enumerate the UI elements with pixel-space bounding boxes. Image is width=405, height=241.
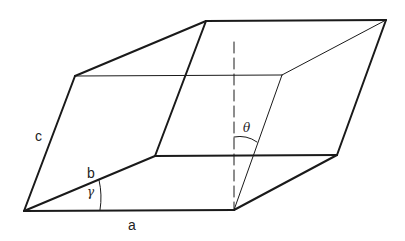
edge-top-front-thin	[75, 75, 282, 76]
edge-front-right-thin	[234, 75, 282, 210]
label-gamma: γ	[87, 186, 94, 198]
edge-back-left	[155, 21, 206, 156]
edge-a	[24, 210, 234, 211]
edge-top-back	[206, 20, 386, 21]
edge-back-right	[337, 20, 386, 155]
edge-top-left	[75, 21, 206, 76]
label-theta: θ	[243, 122, 250, 134]
edge-top-right-thin	[282, 20, 386, 75]
edge-c	[24, 76, 75, 211]
label-a: a	[128, 218, 136, 232]
gamma-arc	[99, 180, 101, 210]
theta-arc	[234, 136, 257, 142]
label-b: b	[87, 166, 95, 180]
parallelepiped-diagram	[0, 0, 405, 241]
edge-bottom-back	[155, 155, 337, 156]
label-c: c	[35, 129, 42, 143]
edge-bottom-right	[234, 155, 337, 210]
